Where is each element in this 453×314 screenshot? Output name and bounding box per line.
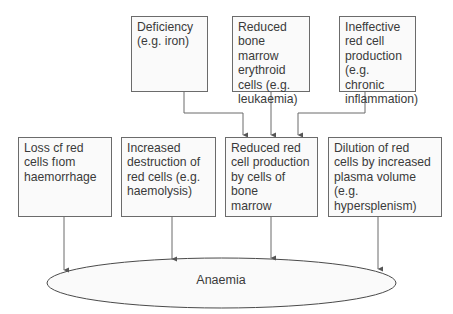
box-reduced-erythroid: Reduced bone marrow erythroid cells (e.g… (232, 16, 310, 92)
box-dilution: Dilution of red cells by increased plasm… (328, 137, 442, 217)
box-label: Reduced red cell production by cells of … (231, 141, 312, 213)
box-label: Dilution of red cells by increased plasm… (334, 141, 436, 213)
box-deficiency: Deficiency (e.g. iron) (131, 16, 208, 92)
box-label: Deficiency (e.g. iron) (137, 20, 202, 49)
box-label: Loss cf red cells fıom haemorrhage (24, 141, 106, 184)
box-increased-destruction: Increased destruction of red cells (e.g.… (121, 137, 216, 217)
box-reduced-production: Reduced red cell production by cells of … (225, 137, 318, 217)
box-ineffective-production: Ineffective red cell production (e.g. ch… (339, 16, 416, 92)
box-loss-haemorrhage: Loss cf red cells fıom haemorrhage (18, 137, 112, 217)
box-label: Ineffective red cell production (e.g. ch… (345, 20, 410, 106)
anaemia-label: Anaemia (171, 273, 271, 287)
box-label: Increased destruction of red cells (e.g.… (127, 141, 210, 199)
anaemia-causes-diagram: Deficiency (e.g. iron) Reduced bone marr… (0, 0, 453, 314)
edge-deficiency-to-reduced-production (184, 91, 243, 135)
box-label: Reduced bone marrow erythroid cells (e.g… (238, 20, 304, 106)
